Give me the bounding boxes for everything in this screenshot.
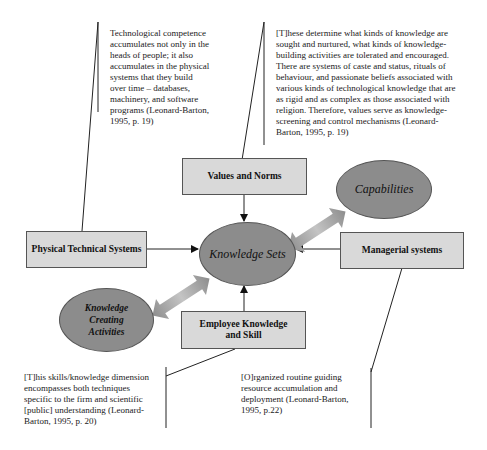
quote-values-norms: [T]hese determine what kinds of knowledg… [276, 28, 456, 138]
knowledge-sets-diagram: Technological competence accumulates not… [0, 0, 487, 450]
quote-employee-knowledge: [T]his skills/knowledge dimension encomp… [24, 372, 152, 427]
callout-managerial [371, 268, 402, 428]
managerial-systems-box: Managerial systems [340, 232, 464, 269]
capabilities-ellipse: Capabilities [336, 160, 432, 219]
callout-employee [166, 349, 235, 428]
physical-technical-systems-box: Physical Technical Systems [26, 231, 147, 268]
callout-physical [82, 22, 98, 231]
callout-values [242, 22, 264, 160]
employee-knowledge-skill-box: Employee Knowledge and Skill [181, 311, 306, 349]
quote-managerial-systems: [O]rganized routine guiding resource acc… [241, 372, 351, 416]
quote-physical-systems: Technological competence accumulates not… [110, 28, 210, 127]
knowledge-sets-ellipse: Knowledge Sets [199, 222, 296, 286]
values-and-norms-box: Values and Norms [182, 158, 307, 195]
knowledge-creating-activities-ellipse: Knowledge Creating Activities [59, 288, 154, 352]
